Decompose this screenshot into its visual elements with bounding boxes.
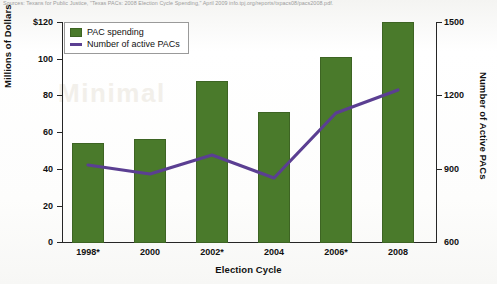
x-tick-label-1: 2000 [125,247,175,257]
x-tick-label-4: 2006* [311,247,361,257]
x-tick-label-5: 2008 [373,247,423,257]
x-tick-label-2: 2002* [187,247,237,257]
legend-swatch-icon [70,28,82,37]
legend-label-bar: PAC spending [87,27,144,37]
x-tick-label-3: 2004 [249,247,299,257]
legend-line-icon [70,43,82,46]
legend-label-line: Number of active PACs [87,39,180,49]
chart-figure: Minimal $120 100 80 60 40 20 0 1500 1200… [0,0,497,284]
x-tick-label-0: 1998* [63,247,113,257]
legend-item-active-pacs[interactable]: Number of active PACs [70,38,180,50]
legend-item-pac-spending[interactable]: PAC spending [70,26,180,38]
chart-legend: PAC spending Number of active PACs [64,22,189,54]
